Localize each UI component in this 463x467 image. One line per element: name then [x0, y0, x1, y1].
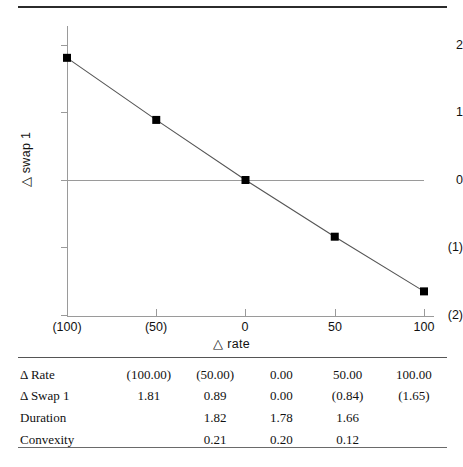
- table-cell-value: (1.65): [381, 386, 447, 408]
- table-row-label: Δ Swap 1: [18, 386, 116, 408]
- table-cell-value: 1.78: [248, 407, 314, 429]
- table-cell-value: 50.00: [314, 364, 380, 386]
- table-cell-value: 1.66: [314, 407, 380, 429]
- table-cell-value: (0.84): [314, 386, 380, 408]
- table-row: Δ Swap 11.810.890.00(0.84)(1.65): [18, 386, 447, 408]
- table-cell-value: (50.00): [182, 364, 248, 386]
- summary-data-table: Δ Rate(100.00)(50.00)0.0050.00100.00Δ Sw…: [18, 364, 447, 451]
- data-point-marker: [242, 176, 250, 184]
- table-cell-value: [116, 407, 182, 429]
- table-row: Δ Rate(100.00)(50.00)0.0050.00100.00: [18, 364, 447, 386]
- table-cell-value: 0.89: [182, 386, 248, 408]
- table-bottom-rule: [18, 447, 447, 448]
- table-top-rule: [18, 357, 447, 358]
- data-point-marker: [420, 287, 428, 295]
- chart-plot-area: 2 1 0 (1) (2) (100) (50) 0 50 100 △ rate…: [0, 0, 463, 360]
- data-point-marker: [63, 54, 71, 62]
- table-row: Duration1.821.781.66: [18, 407, 447, 429]
- data-point-marker: [331, 233, 339, 241]
- table-cell-value: 0.00: [248, 386, 314, 408]
- table-row-label: Δ Rate: [18, 364, 116, 386]
- table-cell-value: (100.00): [116, 364, 182, 386]
- data-series-layer: [0, 0, 463, 360]
- figure-container: 2 1 0 (1) (2) (100) (50) 0 50 100 △ rate…: [0, 0, 463, 467]
- data-point-marker: [152, 116, 160, 124]
- table-cell-value: 100.00: [381, 364, 447, 386]
- series-markers: [63, 54, 428, 296]
- table-cell-value: 0.00: [248, 364, 314, 386]
- table-cell-value: 1.81: [116, 386, 182, 408]
- series-polyline: [67, 58, 424, 292]
- table-cell-value: [381, 407, 447, 429]
- table-row-label: Duration: [18, 407, 116, 429]
- table-cell-value: 1.82: [182, 407, 248, 429]
